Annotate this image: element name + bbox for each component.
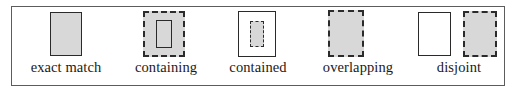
shape-area-disjoint: [412, 7, 506, 59]
rect-containing-inner: [156, 20, 172, 48]
legend-cell-containing: containing: [120, 7, 212, 85]
legend-cell-overlapping: overlapping: [304, 7, 412, 85]
rect-contained-inner: [250, 21, 264, 47]
legend-cell-disjoint: disjoint: [412, 7, 506, 85]
figure-root: exact match containing contained overl: [0, 0, 522, 93]
shape-area-overlapping: [304, 7, 412, 59]
legend-cell-contained: contained: [212, 7, 304, 85]
legend-label-disjoint: disjoint: [412, 59, 506, 76]
shape-area-contained: [212, 7, 304, 59]
rect-disjoint-left: [418, 12, 451, 56]
rect-overlapping-offset: [328, 10, 364, 57]
rect-disjoint-right: [463, 11, 497, 57]
figure-frame: exact match containing contained overl: [11, 6, 505, 86]
legend-label-overlapping: overlapping: [304, 59, 412, 76]
shape-area-exact-match: [12, 7, 120, 59]
legend-label-exact-match: exact match: [12, 59, 120, 76]
legend-label-containing: containing: [120, 59, 212, 76]
legend-cell-exact-match: exact match: [12, 7, 120, 85]
shape-area-containing: [120, 7, 212, 59]
rect-exact-match-overlapped: [50, 12, 82, 56]
legend-label-contained: contained: [212, 59, 304, 76]
